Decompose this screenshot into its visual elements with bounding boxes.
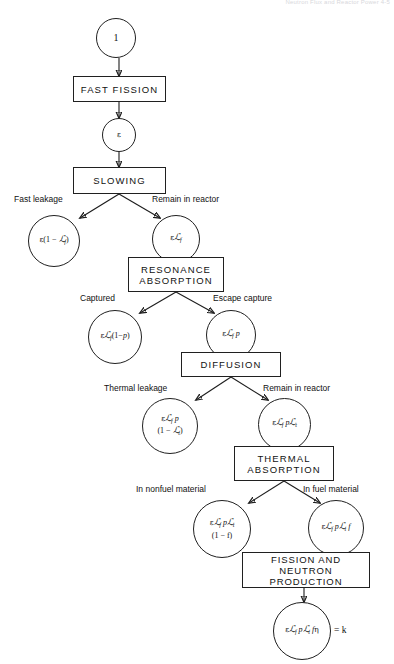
node-thermal-remain-value: εℒf pℒt	[258, 398, 311, 451]
node-infuel-value-label: εℒf pℒt f	[322, 522, 351, 535]
edge-diffusion-to-thermalleak	[196, 377, 231, 400]
node-k-effective-label: εℒf pℒt fη	[285, 625, 318, 638]
node-diffusion-label: DIFFUSION	[200, 359, 261, 370]
node-fission-production: FISSION AND NEUTRON PRODUCTION	[242, 552, 370, 588]
label-in-fuel-material: In fuel material	[303, 484, 359, 494]
node-start: 1	[96, 18, 136, 58]
node-fast-fission-label: FAST FISSION	[81, 84, 158, 95]
node-fission-production-line2: NEUTRON PRODUCTION	[243, 565, 369, 587]
edge-resonance-to-captured	[140, 292, 176, 313]
node-fast-leakage-value: ε(1 − ℒf)	[28, 215, 80, 267]
label-in-nonfuel-material: In nonfuel material	[136, 484, 206, 494]
node-nonfuel-line1: εℒf pℒt	[210, 518, 235, 531]
node-resonance-line2: ABSORPTION	[139, 275, 212, 286]
node-thermal-remain-value-label: εℒf pℒt	[272, 418, 297, 431]
node-thermal-absorption-line1: THERMAL	[257, 453, 310, 464]
edge-slowing-to-fastleak	[80, 194, 119, 218]
node-fast-remain-value-label: εℒf	[170, 233, 181, 246]
node-thermal-leakage-value: εℒf p (1 − ℒt)	[142, 398, 198, 454]
node-fission-production-line1: FISSION AND	[271, 554, 341, 565]
node-slowing: SLOWING	[73, 167, 166, 194]
node-k-effective-value: εℒf pℒt fη	[273, 602, 331, 660]
node-thermal-leakage-line2: (1 − ℒt)	[157, 426, 182, 439]
edge-thermalabs-to-nonfuel	[249, 481, 284, 503]
node-thermal-absorption-line2: ABSORPTION	[247, 464, 320, 475]
node-nonfuel-line2: (1 − f)	[212, 531, 233, 541]
label-fast-leakage: Fast leakage	[14, 194, 63, 204]
label-remain-in-reactor-1: Remain in reactor	[152, 194, 219, 204]
label-thermal-leakage: Thermal leakage	[104, 383, 167, 393]
node-resonance-absorption: RESONANCE ABSORPTION	[128, 257, 224, 292]
node-thermal-absorption: THERMAL ABSORPTION	[234, 446, 334, 481]
node-slowing-label: SLOWING	[93, 175, 146, 186]
diagram-canvas: Neutron Flux and Reactor Power 4-5	[0, 0, 394, 664]
node-resonance-line1: RESONANCE	[141, 264, 211, 275]
node-epsilon: ε	[102, 118, 136, 152]
node-escape-value-label: εℒf p	[222, 329, 239, 342]
node-fast-fission: FAST FISSION	[73, 76, 166, 102]
node-epsilon-label: ε	[117, 130, 121, 140]
label-remain-in-reactor-2: Remain in reactor	[263, 383, 330, 393]
node-infuel-value: εℒf pℒt f	[308, 500, 364, 556]
node-fast-remain-value: εℒf	[152, 215, 200, 263]
label-escape-capture: Escape capture	[213, 293, 272, 303]
node-fast-leakage-value-label: ε(1 − ℒf)	[39, 235, 68, 248]
edge-resonance-to-escape	[176, 292, 214, 313]
node-captured-value: εℒf(1−p)	[88, 310, 142, 364]
node-start-label: 1	[114, 33, 119, 43]
k-effective-equals: = k	[334, 625, 346, 635]
label-captured: Captured	[80, 293, 115, 303]
node-diffusion: DIFFUSION	[181, 352, 281, 377]
node-nonfuel-value: εℒf pℒt (1 − f)	[193, 500, 251, 558]
node-captured-value-label: εℒf(1−p)	[100, 331, 129, 344]
